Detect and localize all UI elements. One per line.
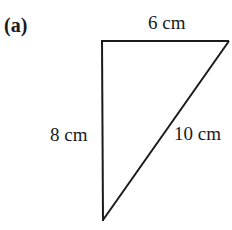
- side-label-top: 6 cm: [148, 13, 185, 32]
- side-label-left: 8 cm: [50, 125, 87, 144]
- right-triangle-drawing: [0, 0, 232, 230]
- part-label: (a): [4, 15, 27, 35]
- side-left-8cm: [102, 40, 103, 221]
- side-label-hypotenuse: 10 cm: [174, 124, 221, 143]
